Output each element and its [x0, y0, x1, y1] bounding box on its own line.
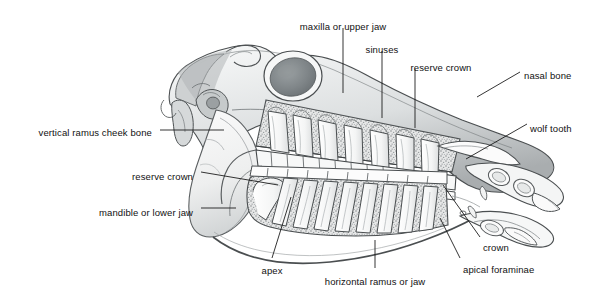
callout-label-crown: crown [483, 243, 509, 253]
callout-label-reserve-crown-upper: reserve crown [411, 63, 472, 73]
callout-label-horizontal-ramus: horizontal ramus or jaw [325, 277, 426, 287]
callout-label-vertical-ramus: vertical ramus cheek bone [39, 128, 152, 138]
callout-label-mandible: mandible or lower jaw [99, 208, 193, 218]
anatomy-figure: maxilla or upper jawsinusesreserve crown… [0, 0, 599, 295]
callout-label-apical-foraminae: apical foraminae [463, 265, 534, 275]
tmj-condyle [207, 97, 220, 109]
diastema-line [452, 196, 480, 207]
callout-label-sinuses: sinuses [366, 45, 399, 55]
leader-line-apical-foraminae [440, 218, 460, 258]
callout-label-reserve-crown-lower: reserve crown [132, 172, 193, 182]
callout-label-wolf-tooth: wolf tooth [530, 124, 572, 134]
leader-line-nasal-bone [477, 72, 520, 97]
callout-label-maxilla: maxilla or upper jaw [300, 22, 386, 32]
lower-teeth-clip [252, 178, 438, 233]
upper-tooth [293, 110, 313, 157]
callout-label-nasal-bone: nasal bone [524, 71, 571, 81]
upper-tooth [268, 107, 289, 153]
skull-illustration [0, 0, 599, 295]
lower-dental-arcade [247, 166, 466, 236]
callout-label-apex: apex [261, 266, 282, 276]
